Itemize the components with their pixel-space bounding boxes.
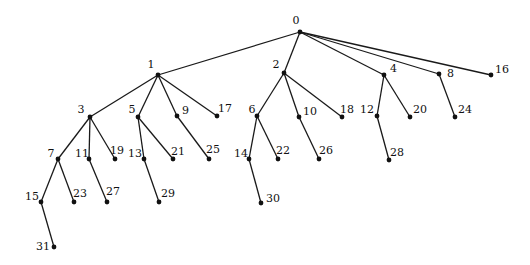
node-26	[317, 157, 322, 162]
node-4	[382, 73, 387, 78]
binomial-tree-diagram: 0124816359176101812202471119132125142226…	[0, 0, 530, 265]
node-30	[259, 201, 264, 206]
node-label-11: 11	[75, 147, 89, 160]
node-label-16: 16	[495, 63, 509, 76]
node-label-30: 30	[266, 192, 280, 205]
node-label-0: 0	[293, 14, 300, 27]
node-15	[39, 200, 44, 205]
node-24	[453, 115, 458, 120]
node-label-17: 17	[218, 102, 232, 115]
edge-4-20	[384, 75, 410, 117]
node-3	[88, 115, 93, 120]
node-25	[207, 157, 212, 162]
node-label-31: 31	[36, 240, 50, 253]
node-29	[157, 200, 162, 205]
node-label-10: 10	[303, 105, 317, 118]
node-label-9: 9	[182, 104, 189, 117]
node-19	[113, 157, 118, 162]
node-label-21: 21	[171, 145, 185, 158]
node-13	[142, 157, 147, 162]
edge-4-12	[377, 75, 384, 116]
node-label-8: 8	[447, 67, 454, 80]
node-label-1: 1	[148, 58, 155, 71]
node-label-26: 26	[319, 144, 333, 157]
node-0	[298, 30, 303, 35]
node-label-5: 5	[129, 103, 136, 116]
node-16	[489, 73, 494, 78]
node-1	[156, 73, 161, 78]
edge-8-24	[439, 74, 455, 117]
node-9	[175, 114, 180, 119]
edge-2-6	[257, 73, 284, 116]
edge-14-30	[249, 159, 261, 203]
node-label-6: 6	[249, 103, 256, 116]
node-label-13: 13	[128, 147, 142, 160]
edge-11-27	[89, 159, 107, 202]
edge-7-23	[58, 159, 74, 202]
node-label-20: 20	[413, 103, 427, 116]
node-label-7: 7	[48, 147, 55, 160]
node-22	[276, 157, 281, 162]
edge-0-2	[284, 32, 300, 73]
node-label-28: 28	[390, 146, 404, 159]
edge-10-26	[299, 117, 319, 159]
node-23	[72, 200, 77, 205]
node-label-4: 4	[390, 62, 397, 75]
node-label-14: 14	[234, 147, 248, 160]
edge-3-11	[89, 117, 90, 159]
node-2	[282, 71, 287, 76]
node-label-24: 24	[458, 103, 472, 116]
tree-labels: 0124816359176101812202471119132125142226…	[25, 14, 509, 253]
node-label-3: 3	[78, 103, 85, 116]
node-label-19: 19	[110, 144, 124, 157]
edge-6-22	[257, 116, 278, 159]
node-label-12: 12	[360, 103, 374, 116]
node-label-25: 25	[206, 143, 220, 156]
node-7	[56, 157, 61, 162]
node-5	[136, 115, 141, 120]
tree-edges	[41, 32, 491, 247]
edge-6-14	[249, 116, 257, 159]
node-10	[297, 115, 302, 120]
node-label-18: 18	[340, 103, 354, 116]
node-12	[375, 114, 380, 119]
edge-13-29	[144, 159, 159, 202]
node-label-2: 2	[273, 58, 280, 71]
node-8	[437, 72, 442, 77]
tree-nodes	[39, 30, 494, 250]
node-label-29: 29	[161, 187, 175, 200]
node-31	[52, 245, 57, 250]
node-label-15: 15	[25, 190, 39, 203]
node-label-22: 22	[276, 144, 290, 157]
edge-7-15	[41, 159, 58, 202]
node-27	[105, 200, 110, 205]
edge-2-10	[284, 73, 299, 117]
node-label-27: 27	[106, 185, 120, 198]
node-label-23: 23	[73, 187, 87, 200]
node-20	[408, 115, 413, 120]
edge-12-28	[377, 116, 389, 160]
